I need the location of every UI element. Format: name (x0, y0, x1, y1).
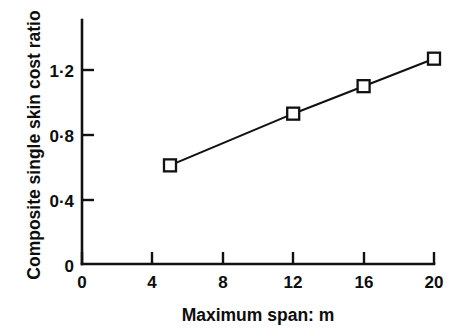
y-axis-title: Composite single skin cost ratio (24, 10, 44, 279)
x-tick-label-0: 0 (77, 273, 86, 292)
data-marker-group (164, 53, 440, 172)
chart-plot-area: 1·2 0·8 0·4 0 0 4 8 12 16 20 Maximum spa… (0, 0, 469, 332)
data-point-marker (287, 108, 299, 120)
chart-figure: 1·2 0·8 0·4 0 0 4 8 12 16 20 Maximum spa… (0, 0, 469, 332)
x-tick-label-12: 12 (284, 273, 303, 292)
data-point-marker (358, 80, 370, 92)
y-tick-label-0: 0 (65, 257, 74, 276)
data-point-marker (164, 159, 176, 171)
x-axis-title: Maximum span: m (182, 305, 335, 325)
y-tick-label-1-2: 1·2 (49, 62, 74, 81)
data-series-line (170, 59, 434, 166)
x-tick-label-4: 4 (147, 273, 157, 292)
x-tick-label-16: 16 (355, 273, 374, 292)
data-point-marker (428, 53, 440, 65)
y-tick-label-0-4: 0·4 (49, 192, 74, 211)
y-tick-label-0-8: 0·8 (49, 127, 74, 146)
x-tick-label-20: 20 (425, 273, 444, 292)
x-tick-label-8: 8 (218, 273, 227, 292)
